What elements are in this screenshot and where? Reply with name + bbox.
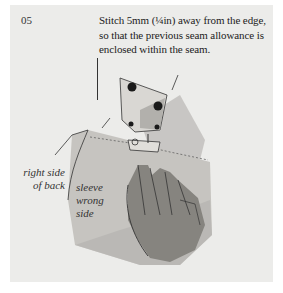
- label-right-side-of-back: right side of back: [20, 166, 65, 192]
- pointer-line: [97, 58, 98, 100]
- label-sleeve-wrong-side: sleeve wrong side: [76, 181, 124, 220]
- screw-icon: [154, 102, 163, 111]
- screw-icon: [128, 83, 137, 92]
- step-number: 05: [21, 14, 32, 26]
- instruction-text: Stitch 5mm (¼in) away from the edge, so …: [99, 13, 274, 57]
